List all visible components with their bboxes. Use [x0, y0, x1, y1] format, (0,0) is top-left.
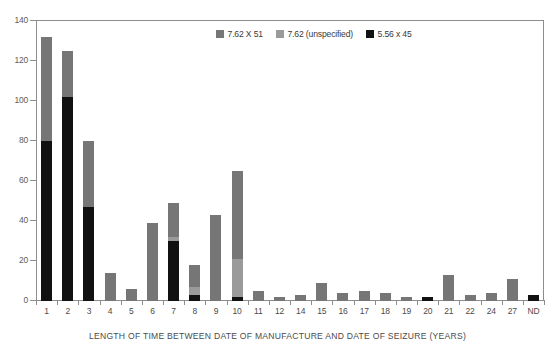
y-axis-label: 60 — [0, 175, 28, 185]
x-axis-tick — [78, 300, 79, 305]
x-axis-ticks — [36, 300, 544, 305]
x-axis-tick — [227, 300, 228, 305]
bar-slot — [78, 20, 99, 301]
bar-slot — [184, 20, 205, 301]
y-axis-label: 80 — [0, 135, 28, 145]
bar-3[interactable] — [83, 141, 94, 301]
y-axis-label: 100 — [0, 95, 28, 105]
bar-slot — [36, 20, 57, 301]
x-axis-label-6: 6 — [142, 306, 163, 320]
bar-segment — [443, 275, 454, 301]
bar-7[interactable] — [168, 203, 179, 301]
bar-segment — [232, 259, 243, 297]
bar-series-group — [36, 20, 544, 301]
x-axis-tick — [544, 300, 545, 305]
x-axis-tick — [142, 300, 143, 305]
x-axis-tick — [459, 300, 460, 305]
bar-slot — [311, 20, 332, 301]
bar-segment — [316, 283, 327, 301]
bar-slot — [269, 20, 290, 301]
legend-item[interactable]: 7.62 X 51 — [216, 29, 263, 39]
x-axis-tick — [332, 300, 333, 305]
x-axis-tick — [375, 300, 376, 305]
x-axis-tick — [163, 300, 164, 305]
bar-segment — [83, 141, 94, 207]
legend-item[interactable]: 7.62 (unspecified) — [276, 29, 353, 39]
bar-slot — [375, 20, 396, 301]
x-axis-tick — [205, 300, 206, 305]
bar-slot — [396, 20, 417, 301]
x-axis-labels: 1234567891011121415161718192021222427ND — [36, 306, 544, 320]
x-axis-tick — [354, 300, 355, 305]
x-axis-label-18: 18 — [375, 306, 396, 320]
bar-segment — [189, 287, 200, 295]
x-axis-label-9: 9 — [205, 306, 226, 320]
bar-8[interactable] — [189, 265, 200, 301]
x-axis-tick — [396, 300, 397, 305]
legend-item[interactable]: 5.56 x 45 — [366, 29, 412, 39]
x-axis-label-19: 19 — [396, 306, 417, 320]
bar-segment — [41, 141, 52, 301]
bar-slot — [100, 20, 121, 301]
bar-slot — [332, 20, 353, 301]
bar-slot — [248, 20, 269, 301]
bar-segment — [105, 273, 116, 301]
x-axis-label-7: 7 — [163, 306, 184, 320]
x-axis-label-4: 4 — [100, 306, 121, 320]
bar-slot — [121, 20, 142, 301]
x-axis-label-21: 21 — [438, 306, 459, 320]
x-axis-tick — [523, 300, 524, 305]
bar-2[interactable] — [62, 51, 73, 301]
x-axis-label-14: 14 — [290, 306, 311, 320]
x-axis-label-11: 11 — [248, 306, 269, 320]
bar-segment — [147, 223, 158, 301]
x-axis-tick — [100, 300, 101, 305]
x-axis-tick — [481, 300, 482, 305]
bar-10[interactable] — [232, 171, 243, 301]
y-axis-label: 140 — [0, 15, 28, 25]
x-axis-label-5: 5 — [121, 306, 142, 320]
x-axis-label-17: 17 — [354, 306, 375, 320]
bar-slot — [354, 20, 375, 301]
bar-segment — [83, 207, 94, 301]
bar-slot — [417, 20, 438, 301]
bar-segment — [189, 265, 200, 287]
x-axis-label-1: 1 — [36, 306, 57, 320]
bar-slot — [205, 20, 226, 301]
bar-segment — [62, 97, 73, 301]
bar-1[interactable] — [41, 37, 52, 301]
legend-swatch-icon — [276, 30, 284, 38]
bar-21[interactable] — [443, 275, 454, 301]
legend-label: 7.62 X 51 — [228, 29, 263, 39]
x-axis-tick — [438, 300, 439, 305]
bar-27[interactable] — [507, 279, 518, 301]
bar-9[interactable] — [210, 215, 221, 301]
bar-slot — [57, 20, 78, 301]
x-axis-tick — [57, 300, 58, 305]
bar-15[interactable] — [316, 283, 327, 301]
bar-segment — [232, 171, 243, 259]
bar-segment — [507, 279, 518, 301]
bar-slot — [523, 20, 544, 301]
bar-6[interactable] — [147, 223, 158, 301]
y-axis-label: 120 — [0, 55, 28, 65]
bar-4[interactable] — [105, 273, 116, 301]
x-axis-tick — [417, 300, 418, 305]
bar-segment — [168, 241, 179, 301]
bar-segment — [168, 203, 179, 237]
bar-slot — [502, 20, 523, 301]
chart-figure: 140120100806040200 123456789101112141516… — [0, 0, 555, 350]
x-axis-title: LENGTH OF TIME BETWEEN DATE OF MANUFACTU… — [0, 331, 555, 341]
x-axis-label-2: 2 — [57, 306, 78, 320]
x-axis-label-15: 15 — [311, 306, 332, 320]
x-axis-label-16: 16 — [332, 306, 353, 320]
x-axis-tick — [269, 300, 270, 305]
bar-slot — [163, 20, 184, 301]
x-axis-label-10: 10 — [227, 306, 248, 320]
x-axis-tick — [290, 300, 291, 305]
bar-slot — [459, 20, 480, 301]
legend-swatch-icon — [366, 30, 374, 38]
x-axis-label-12: 12 — [269, 306, 290, 320]
y-axis-label: 20 — [0, 255, 28, 265]
x-axis-label-3: 3 — [78, 306, 99, 320]
